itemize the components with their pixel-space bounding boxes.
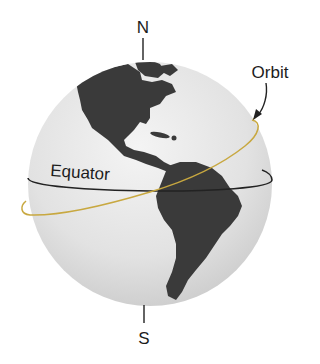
landmass-island xyxy=(172,136,177,141)
earth-diagram: N S Orbit Equator xyxy=(0,0,320,364)
orbit-label: Orbit xyxy=(252,63,289,82)
globe xyxy=(28,60,272,306)
north-label: N xyxy=(137,18,149,37)
south-label: S xyxy=(138,329,149,348)
orbit-pointer-arrow xyxy=(258,83,267,115)
